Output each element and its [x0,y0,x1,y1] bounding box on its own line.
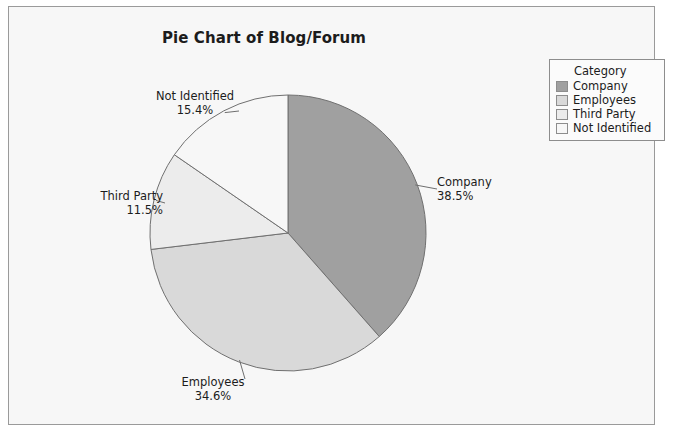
legend-label-third-party: Third Party [573,107,636,121]
legend-item-not-identified[interactable]: Not Identified [556,121,658,135]
slice-label-third-party-name: Third Party [101,189,164,203]
slice-label-not-identified: Not Identified 15.4% [145,89,245,117]
legend-item-company[interactable]: Company [556,79,658,93]
slice-label-employees-percent: 34.6% [169,389,257,403]
legend-item-third-party[interactable]: Third Party [556,107,658,121]
legend-label-employees: Employees [573,93,636,107]
legend-title: Category [556,64,658,78]
legend-label-not-identified: Not Identified [573,121,651,135]
legend-swatch-third-party-icon [556,109,568,120]
legend: Category Company Employees Third Party N… [549,59,665,141]
legend-swatch-company-icon [556,81,568,92]
slice-label-company-percent: 38.5% [437,189,492,203]
slice-label-employees-name: Employees [182,375,245,389]
slice-label-third-party-percent: 11.5% [77,203,163,217]
chart-frame: Pie Chart of Blog/Forum Company 38.5% Em… [8,6,655,425]
legend-item-employees[interactable]: Employees [556,93,658,107]
slice-label-company: Company 38.5% [437,175,492,203]
slice-label-not-identified-percent: 15.4% [145,103,245,117]
legend-swatch-employees-icon [556,95,568,106]
legend-swatch-not-identified-icon [556,123,568,134]
slice-label-employees: Employees 34.6% [169,375,257,403]
slice-label-third-party: Third Party 11.5% [77,189,163,217]
slice-label-company-name: Company [437,175,492,189]
slice-label-not-identified-name: Not Identified [156,89,234,103]
pie-slices [150,95,426,371]
legend-label-company: Company [573,79,628,93]
